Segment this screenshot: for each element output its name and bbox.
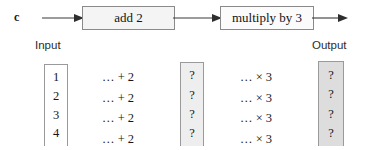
function-machine-diagram: c add 2 multiply by 3 Input Output 1 2 3… [0, 0, 373, 150]
multiply-operation-cell: … × 3 [240, 129, 272, 148]
add-operation-cell: … + 2 [102, 109, 134, 128]
operation-box-multiply: multiply by 3 [220, 6, 314, 30]
add-operation-column: … + 2 … + 2 … + 2 … + 2 [102, 64, 162, 150]
multiply-operation-cell: … × 3 [240, 109, 272, 128]
intermediate-value-cell: ? [189, 66, 195, 85]
output-caption: Output [312, 39, 347, 51]
output-value-cell: ? [328, 65, 334, 84]
operation-box-add-label: add 2 [114, 10, 143, 26]
output-value-cell: ? [328, 104, 334, 123]
part-label: c [14, 10, 20, 25]
operation-box-multiply-label: multiply by 3 [232, 10, 302, 26]
multiply-operation-column: … × 3 … × 3 … × 3 … × 3 [240, 64, 302, 150]
input-value-cell: 2 [53, 87, 59, 106]
multiply-operation-cell: … × 3 [240, 88, 272, 107]
operation-box-add: add 2 [82, 6, 175, 30]
output-value-column: ? ? ? ? [318, 61, 344, 146]
input-value-cell: 3 [53, 106, 59, 125]
multiply-operation-cell: … × 3 [240, 68, 272, 87]
output-arrow [312, 12, 348, 24]
input-value-cell: 1 [53, 68, 59, 87]
input-value-cell: 4 [53, 124, 59, 143]
intermediate-arrow [173, 12, 222, 24]
intermediate-value-column: ? ? ? ? [180, 62, 204, 146]
output-value-cell: ? [328, 124, 334, 143]
intermediate-value-cell: ? [189, 105, 195, 124]
add-operation-cell: … + 2 [102, 88, 134, 107]
input-caption: Input [35, 39, 61, 51]
output-value-cell: ? [328, 85, 334, 104]
input-value-column: 1 2 3 4 [44, 64, 68, 146]
intermediate-value-cell: ? [189, 85, 195, 104]
add-operation-cell: … + 2 [102, 129, 134, 148]
intermediate-value-cell: ? [189, 124, 195, 143]
add-operation-cell: … + 2 [102, 68, 134, 87]
input-arrow [42, 12, 84, 24]
